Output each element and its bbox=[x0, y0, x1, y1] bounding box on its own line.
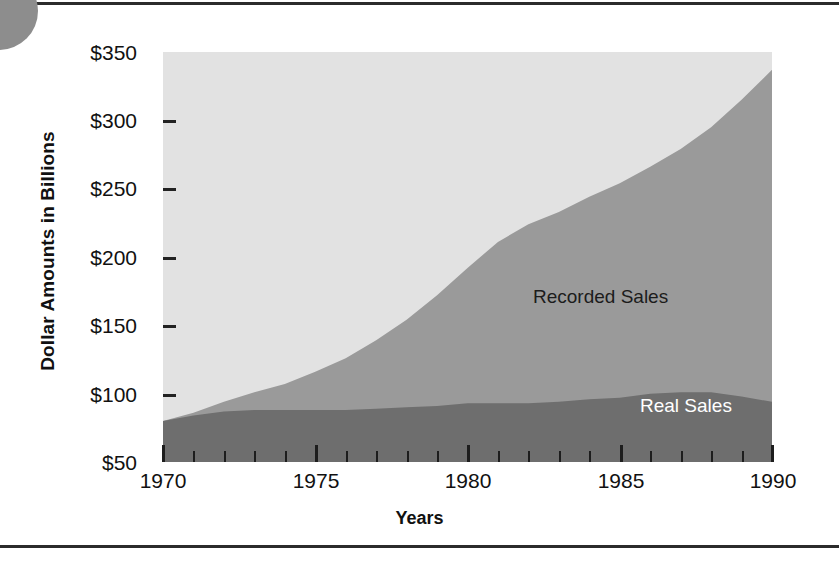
y-tick-label-350: $350 bbox=[45, 42, 137, 63]
x-tick-label-1975: 1975 bbox=[271, 470, 361, 491]
x-tick-1981 bbox=[498, 451, 500, 462]
y-tick-label-250: $250 bbox=[45, 178, 137, 199]
x-tick-1990 bbox=[771, 445, 774, 462]
y-tick-mark-100 bbox=[163, 394, 176, 397]
y-tick-mark-300 bbox=[163, 120, 176, 123]
x-tick-1970 bbox=[162, 445, 165, 462]
x-tick-label-1985: 1985 bbox=[576, 470, 666, 491]
x-tick-1985 bbox=[620, 445, 623, 462]
x-tick-1982 bbox=[528, 451, 530, 462]
x-tick-1984 bbox=[589, 451, 591, 462]
x-tick-1973 bbox=[254, 451, 256, 462]
x-tick-1974 bbox=[285, 451, 287, 462]
x-tick-1987 bbox=[681, 451, 683, 462]
y-tick-label-150: $150 bbox=[45, 315, 137, 336]
y-tick-mark-200 bbox=[163, 257, 176, 260]
x-tick-1978 bbox=[407, 451, 409, 462]
x-tick-label-1980: 1980 bbox=[423, 470, 513, 491]
y-tick-label-200: $200 bbox=[45, 247, 137, 268]
x-tick-1988 bbox=[711, 451, 713, 462]
x-tick-label-1970: 1970 bbox=[118, 470, 208, 491]
x-tick-label-1990: 1990 bbox=[728, 470, 818, 491]
x-tick-1983 bbox=[559, 451, 561, 462]
series-label-recorded-sales: Recorded Sales bbox=[533, 287, 668, 306]
series-label-real-sales: Real Sales bbox=[640, 396, 732, 415]
y-tick-mark-250 bbox=[163, 188, 176, 191]
x-tick-1989 bbox=[742, 451, 744, 462]
x-tick-1975 bbox=[315, 445, 318, 462]
x-tick-1972 bbox=[224, 451, 226, 462]
x-tick-1976 bbox=[346, 451, 348, 462]
bottom-rule bbox=[0, 545, 839, 548]
x-tick-1980 bbox=[467, 445, 470, 462]
x-tick-1979 bbox=[437, 451, 439, 462]
x-tick-1986 bbox=[650, 451, 652, 462]
x-axis-title: Years bbox=[0, 508, 839, 529]
y-tick-label-100: $100 bbox=[45, 384, 137, 405]
y-tick-label-300: $300 bbox=[45, 110, 137, 131]
area-chart-figure: Dollar Amounts in Billions $350 $300 $25… bbox=[0, 0, 839, 545]
x-tick-1971 bbox=[193, 451, 195, 462]
x-tick-1977 bbox=[376, 451, 378, 462]
y-tick-mark-150 bbox=[163, 325, 176, 328]
